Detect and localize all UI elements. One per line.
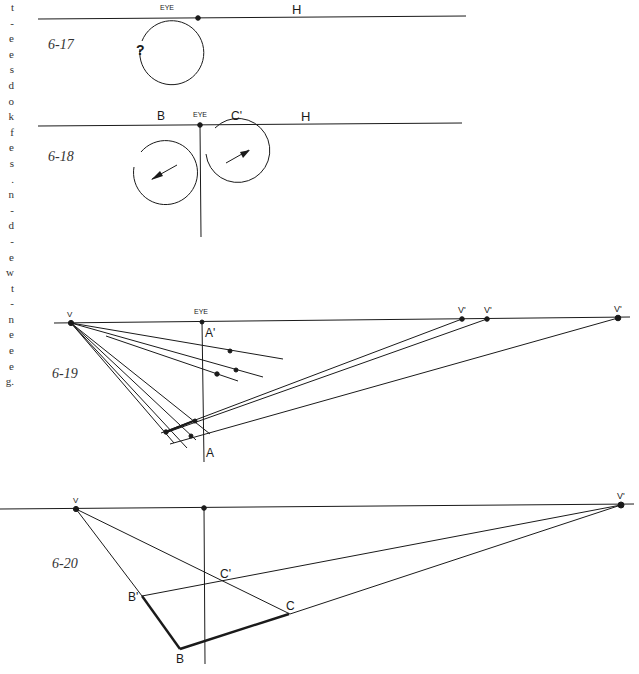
fan-point (234, 368, 238, 372)
fan-point (215, 372, 219, 376)
point-label-b-prime: B' (128, 590, 138, 604)
horizon-line (38, 123, 462, 126)
v-prime-label: V' (617, 491, 625, 501)
horizon-line (0, 504, 634, 509)
v-label: V (73, 496, 79, 505)
left-arrowhead-icon (151, 171, 163, 180)
v-to-c-line (76, 509, 290, 614)
fan-line (71, 323, 174, 443)
edge-b-c (180, 614, 289, 649)
point-label-c-prime: C' (231, 109, 242, 123)
point-label-a: A (206, 446, 214, 460)
figure-6-19 (54, 315, 630, 462)
right-arrowhead-icon (240, 150, 250, 158)
point-label-c: C (286, 599, 295, 613)
intersection-point (164, 430, 168, 434)
eye-label: EYE (194, 308, 208, 315)
circle-arc (140, 21, 204, 85)
edge-b-prime-b (142, 596, 180, 649)
fan-line (71, 323, 283, 359)
vertical-line (202, 322, 204, 462)
figure-number: 6-19 (52, 366, 78, 381)
figure-number: 6-20 (52, 556, 78, 571)
horizon-line (38, 16, 466, 19)
point-label-b: B (176, 652, 184, 666)
c-to-v-prime-line (290, 505, 621, 614)
v-prime-label: V' (484, 305, 492, 315)
v-prime-label: V' (614, 304, 622, 314)
figure-6-17 (38, 16, 466, 85)
eye-label: EYE (160, 4, 174, 11)
right-circle-arc (206, 118, 270, 182)
perspective-diagrams: EYE H 6-17 ? EYE B C' H 6-18 V EYE A' A … (0, 0, 639, 674)
intersection-point (189, 434, 193, 438)
point-label-a-prime: A' (205, 326, 215, 340)
left-circle-arc (134, 141, 198, 205)
v-label: V (67, 310, 73, 319)
horizon-label: H (292, 2, 301, 17)
point-label-b: B (157, 109, 165, 123)
point-label-c-prime: C' (220, 567, 231, 581)
intersection-point (193, 419, 197, 423)
bold-segment (166, 420, 196, 432)
eye-label: EYE (193, 111, 207, 118)
fan-line (71, 323, 210, 434)
figure-number: 6-17 (48, 37, 75, 52)
eye-point (196, 16, 201, 21)
b-prime-to-v-prime-line (142, 505, 621, 596)
question-mark: ? (136, 42, 145, 58)
horizon-line (54, 317, 630, 323)
horizon-label: H (301, 109, 310, 124)
figure-number: 6-18 (48, 149, 74, 164)
vertical-line (200, 125, 201, 237)
fan-point (228, 349, 232, 353)
v-prime-label: V' (458, 305, 466, 315)
figure-6-18 (38, 118, 462, 237)
figure-6-20 (0, 502, 634, 664)
v-to-b-prime-line (76, 509, 142, 596)
